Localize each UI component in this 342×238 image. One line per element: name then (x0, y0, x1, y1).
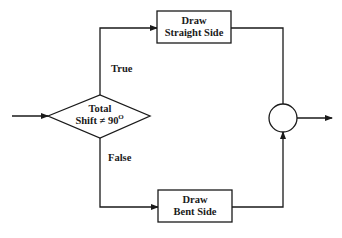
flowchart-canvas: Total Shift ≠ 90 O True False Draw Strai… (0, 0, 342, 238)
bent-box-line1: Draw (182, 194, 207, 205)
straight-box-line1: Draw (181, 15, 206, 26)
true-branch-connector (100, 28, 157, 95)
true-label: True (111, 63, 133, 74)
degree-superscript: O (118, 113, 124, 121)
false-branch-connector (100, 138, 158, 207)
bent-to-junction-connector (232, 132, 283, 207)
bent-box-line2: Bent Side (174, 206, 217, 217)
straight-box-line2: Straight Side (165, 27, 224, 38)
false-label: False (108, 152, 132, 163)
straight-to-junction-connector (231, 28, 283, 104)
decision-label-line2: Shift ≠ 90 (75, 115, 118, 126)
junction-circle (269, 104, 297, 132)
decision-label-line1: Total (89, 103, 112, 114)
flowchart-svg: Total Shift ≠ 90 O True False Draw Strai… (0, 0, 342, 238)
